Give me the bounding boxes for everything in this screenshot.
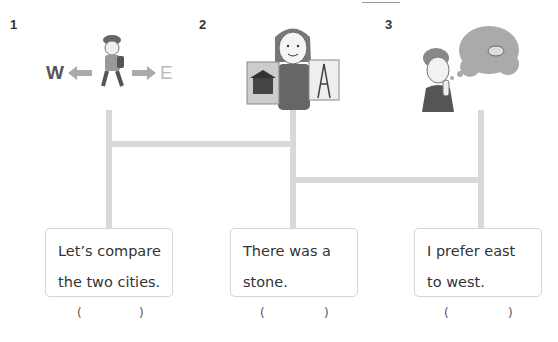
open-paren: ( — [77, 306, 82, 320]
arrow-left-icon — [68, 66, 94, 80]
answer-blank-2[interactable]: ( ) — [260, 306, 330, 324]
close-paren: ) — [324, 306, 329, 320]
boy-icon — [98, 34, 128, 90]
sentence-line: Let’s compare — [58, 236, 172, 267]
sentence-card-1: Let’s compare the two cities. — [45, 228, 173, 297]
sentence-card-2: There was a stone. — [230, 228, 358, 297]
sentence-line: to west. — [427, 267, 541, 298]
item-number-3: 3 — [385, 17, 392, 32]
connector-line-2 — [290, 110, 296, 230]
ladder-rung-1 — [110, 141, 292, 147]
item-number-1: 1 — [10, 17, 17, 32]
woman-holding-city-pictures-icon — [245, 22, 345, 112]
sentence-line: stone. — [243, 267, 357, 298]
close-paren: ) — [508, 306, 513, 320]
sentence-line: I prefer east — [427, 236, 541, 267]
boy-thinking-of-stone-icon — [420, 22, 530, 112]
answer-blank-3[interactable]: ( ) — [444, 306, 514, 324]
sentence-line: There was a — [243, 236, 357, 267]
connector-line-3 — [478, 110, 484, 230]
connector-line-1 — [106, 110, 112, 230]
sentence-card-3: I prefer east to west. — [414, 228, 542, 297]
sentence-line: the two cities. — [58, 267, 172, 298]
open-paren: ( — [444, 306, 449, 320]
ladder-rung-2 — [294, 177, 480, 183]
top-divider — [362, 2, 400, 3]
boy-walking-west-east-icon: W E — [46, 30, 176, 92]
answer-blank-1[interactable]: ( ) — [75, 306, 145, 324]
east-label: E — [160, 62, 173, 84]
open-paren: ( — [260, 306, 265, 320]
arrow-right-icon — [132, 66, 158, 80]
stone-icon — [488, 46, 504, 56]
close-paren: ) — [139, 306, 144, 320]
item-number-2: 2 — [199, 17, 206, 32]
west-label: W — [46, 62, 64, 84]
